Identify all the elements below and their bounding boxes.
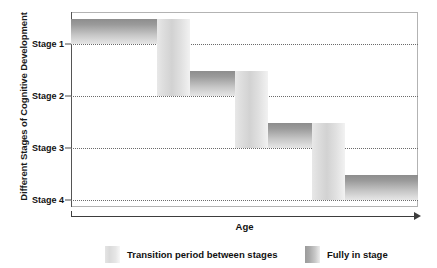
- legend: Transition period between stages Fully i…: [0, 243, 437, 265]
- bar-transition-stage-3-to-4: [312, 123, 345, 200]
- bar-fully-in-stage-1: [71, 19, 157, 44]
- cognitive-development-stage-diagram: Different Stages of Cognitive Developmen…: [0, 0, 437, 268]
- legend-item-fully-in-stage: Fully in stage: [305, 245, 388, 263]
- bar-fully-in-stage-4: [345, 175, 418, 200]
- gridline-stage-3: [71, 148, 418, 149]
- y-tick-label-stage-4: Stage 4: [2, 195, 64, 205]
- x-axis-line: [71, 216, 417, 217]
- bar-transition-stage-2-to-3: [235, 71, 268, 148]
- legend-item-transition: Transition period between stages: [105, 245, 277, 263]
- bar-fully-in-stage-3: [268, 123, 312, 148]
- y-axis-tick-labels: Stage 1 Stage 2 Stage 3 Stage 4: [0, 0, 64, 268]
- legend-label-fully-in-stage: Fully in stage: [327, 249, 388, 260]
- y-tick-label-stage-1: Stage 1: [2, 39, 64, 49]
- bar-fully-in-stage-2: [190, 71, 235, 96]
- gridline-stage-4: [71, 200, 418, 201]
- x-axis-title: Age: [71, 221, 418, 232]
- legend-label-transition: Transition period between stages: [127, 249, 277, 260]
- gridline-stage-1: [71, 44, 418, 45]
- y-tick-label-stage-3: Stage 3: [2, 143, 64, 153]
- y-tick-label-stage-2: Stage 2: [2, 91, 64, 101]
- x-axis-arrow-icon: [414, 212, 421, 220]
- full-in-stage-swatch: [305, 246, 320, 263]
- transition-swatch: [105, 246, 120, 263]
- bar-transition-stage-1-to-2: [157, 19, 190, 96]
